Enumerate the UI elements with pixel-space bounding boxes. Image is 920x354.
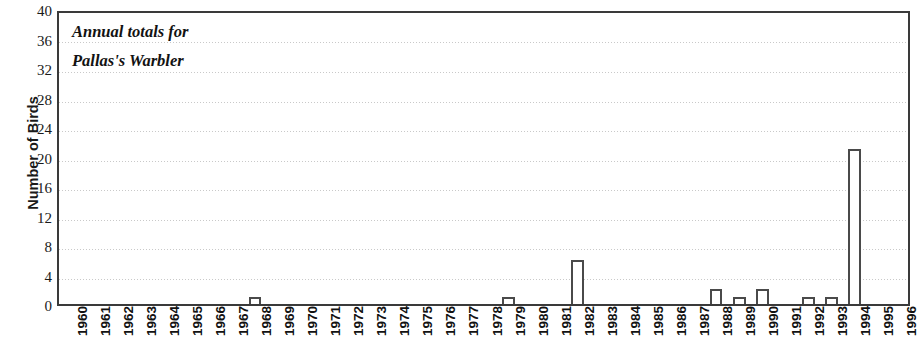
bar	[571, 260, 584, 304]
x-tick-label: 1989	[743, 306, 759, 352]
x-tick-label: 1970	[305, 306, 321, 352]
y-tick-label: 40	[18, 4, 52, 19]
bar	[825, 297, 838, 304]
x-tick-label: 1986	[674, 306, 690, 352]
plot-area: Annual totals for Pallas's Warbler	[57, 11, 910, 306]
bar	[756, 289, 769, 304]
x-tick-label: 1964	[167, 306, 183, 352]
y-tick-label: 8	[18, 240, 52, 255]
bar	[733, 297, 746, 304]
x-tick-label: 1992	[812, 306, 828, 352]
x-tick-label: 1976	[443, 306, 459, 352]
x-tick-label: 1981	[559, 306, 575, 352]
x-tick-label: 1990	[766, 306, 782, 352]
x-tick-label: 1991	[789, 306, 805, 352]
x-tick-label: 1961	[98, 306, 114, 352]
y-tick-label: 36	[18, 33, 52, 48]
x-tick-label: 1965	[190, 306, 206, 352]
y-tick-label: 4	[18, 269, 52, 284]
bar	[502, 297, 515, 304]
x-tick-label: 1968	[259, 306, 275, 352]
y-tick-label: 24	[18, 122, 52, 137]
x-tick-label: 1962	[121, 306, 137, 352]
x-tick-label: 1995	[881, 306, 897, 352]
x-tick-label: 1971	[328, 306, 344, 352]
x-tick-label: 1985	[651, 306, 667, 352]
x-tick-label: 1979	[513, 306, 529, 352]
y-tick-label: 0	[18, 299, 52, 314]
x-tick-label: 1983	[605, 306, 621, 352]
x-tick-label: 1974	[397, 306, 413, 352]
bar	[249, 297, 262, 304]
x-tick-label: 1966	[213, 306, 229, 352]
bar	[848, 149, 861, 304]
x-tick-label: 1977	[466, 306, 482, 352]
y-tick-label: 32	[18, 63, 52, 78]
x-tick-label: 1975	[420, 306, 436, 352]
chart-figure: Number of Birds 0481216202428323640 Annu…	[0, 0, 920, 354]
y-tick-label: 28	[18, 92, 52, 107]
x-tick-label: 1988	[720, 306, 736, 352]
x-tick-label: 1972	[351, 306, 367, 352]
x-tick-label: 1967	[236, 306, 252, 352]
x-tick-label: 1969	[282, 306, 298, 352]
y-axis-tick-labels: 0481216202428323640	[18, 11, 52, 306]
x-tick-label: 1984	[628, 306, 644, 352]
x-tick-label: 1987	[697, 306, 713, 352]
y-tick-label: 20	[18, 151, 52, 166]
y-tick-label: 16	[18, 181, 52, 196]
x-tick-label: 1996	[904, 306, 920, 352]
x-tick-label: 1982	[582, 306, 598, 352]
x-tick-label: 1973	[374, 306, 390, 352]
bar	[802, 297, 815, 304]
x-tick-label: 1978	[490, 306, 506, 352]
bar-series	[59, 13, 908, 304]
bar	[710, 289, 723, 304]
x-tick-label: 1960	[75, 306, 91, 352]
x-tick-label: 1994	[858, 306, 874, 352]
x-tick-label: 1963	[144, 306, 160, 352]
x-tick-label: 1993	[835, 306, 851, 352]
y-tick-label: 12	[18, 210, 52, 225]
x-tick-label: 1980	[536, 306, 552, 352]
x-axis-tick-labels: 1960196119621963196419651966196719681969…	[57, 306, 910, 354]
